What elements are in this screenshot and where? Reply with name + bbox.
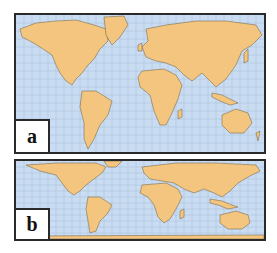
north-america [20, 20, 108, 85]
antarctica [16, 235, 264, 239]
landmasses [16, 161, 264, 239]
new-zealand [256, 131, 260, 141]
greenland [104, 161, 122, 167]
landmasses [20, 16, 262, 149]
madagascar [178, 109, 182, 119]
africa [138, 69, 182, 125]
map-panel-a: a [14, 13, 266, 154]
world-map-a [16, 15, 264, 152]
uk [138, 43, 142, 51]
australia [222, 109, 252, 133]
australia [220, 211, 250, 229]
panel-label-b: b [16, 208, 50, 239]
map-panel-b: b [14, 159, 266, 241]
panel-label-a: a [16, 119, 50, 152]
world-map-b [16, 161, 264, 239]
madagascar [180, 209, 184, 219]
japan [244, 49, 248, 63]
